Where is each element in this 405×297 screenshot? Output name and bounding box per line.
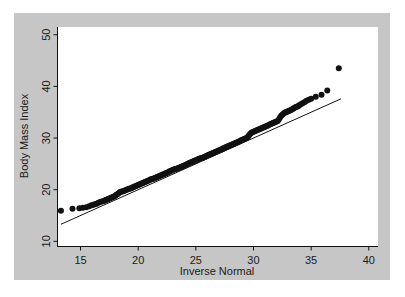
x-axis-title: Inverse Normal (180, 265, 255, 277)
y-tick-label: 30 (41, 132, 53, 144)
x-axis-ticks (81, 247, 369, 251)
x-tick-label: 25 (190, 254, 202, 266)
x-tick-label: 15 (74, 254, 86, 266)
data-point (313, 94, 319, 100)
data-point (324, 88, 330, 94)
x-tick-label: 20 (132, 254, 144, 266)
qq-plot: 1020304050 152025303540 Inverse Normal B… (0, 0, 405, 297)
y-axis-ticks (54, 35, 58, 242)
plot-area-background (57, 27, 378, 246)
x-tick-label: 30 (247, 254, 259, 266)
y-tick-label: 50 (41, 29, 53, 41)
data-point (336, 65, 342, 71)
data-point (319, 92, 325, 98)
y-tick-label: 20 (41, 184, 53, 196)
y-axis-title: Body Mass Index (18, 93, 30, 178)
x-axis-tick-labels: 152025303540 (74, 254, 374, 266)
y-axis-tick-labels: 1020304050 (41, 29, 53, 248)
data-point (69, 206, 75, 212)
x-tick-label: 40 (363, 254, 375, 266)
x-tick-label: 35 (305, 254, 317, 266)
data-point (58, 208, 64, 214)
y-tick-label: 10 (41, 235, 53, 247)
figure-container: 1020304050 152025303540 Inverse Normal B… (0, 0, 405, 297)
y-tick-label: 40 (41, 80, 53, 92)
